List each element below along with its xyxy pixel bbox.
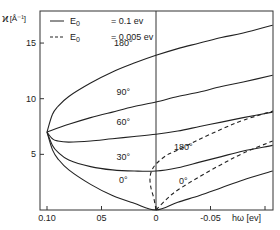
series-line-180deg-solid xyxy=(47,25,273,132)
y-tick-label: 10 xyxy=(26,94,36,104)
x-axis-label: hω [ev] xyxy=(232,213,261,223)
curve-label: 60° xyxy=(116,117,130,127)
series-group xyxy=(47,25,273,210)
legend: E0 = 0.1 ev E0 = 0.005 ev xyxy=(50,16,154,43)
curve-label: 90° xyxy=(116,87,130,97)
legend-dashed-symbol: E0 xyxy=(70,32,80,43)
legend-dashed-value: = 0.005 ev xyxy=(111,32,154,42)
x-tick-label: 0.10 xyxy=(38,213,56,223)
legend-solid-value: = 0.1 ev xyxy=(111,16,144,26)
x-tick-label: -0.05 xyxy=(200,213,221,223)
x-tick-label: 05 xyxy=(96,213,106,223)
axis-ticks xyxy=(40,43,265,210)
y-axis-label: ϰ[Å⁻¹] xyxy=(2,12,26,24)
y-tick-label: 15 xyxy=(26,38,36,48)
series-line-60deg-solid xyxy=(47,112,273,142)
dispersion-chart: 0.10050-0.0551015 180°90°60°30°0°180°0° … xyxy=(0,0,280,230)
curve-label: 30° xyxy=(116,152,130,162)
y-tick-label: 5 xyxy=(31,149,36,159)
curve-label: 0° xyxy=(179,176,188,186)
tick-labels: 0.10050-0.0551015 xyxy=(26,38,221,223)
series-line-90deg-solid xyxy=(47,75,273,132)
series-line-30deg-solid xyxy=(47,132,273,171)
curve-label: 0° xyxy=(119,175,128,185)
legend-solid-symbol: E0 xyxy=(70,16,80,27)
x-tick-label: 0 xyxy=(153,213,158,223)
series-line-180deg-dashed xyxy=(150,111,273,210)
curve-label: 180° xyxy=(174,142,193,152)
curve-annotations: 180°90°60°30°0°180°0° xyxy=(114,38,193,186)
